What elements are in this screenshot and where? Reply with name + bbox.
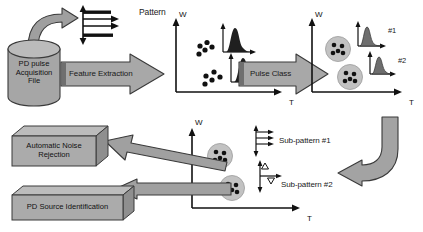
pulse-class-label: Pulse Class <box>250 69 291 78</box>
feature-space-plot-xlabel: T <box>289 98 294 107</box>
automatic-noise-rejection-label: Automatic Noise Rejection <box>12 142 96 159</box>
pd-source-identification[interactable]: PD Source Identification <box>10 184 136 224</box>
automatic-noise-rejection[interactable]: Automatic Noise Rejection <box>10 124 110 168</box>
classified-plot: W T #1 #2 <box>300 14 418 98</box>
pd-pulse-acquisition-file-label: PD pulse Acquisition File <box>6 60 62 86</box>
noise-rejection-line-2: Rejection <box>38 150 70 159</box>
subpattern-plot-xlabel: T <box>307 214 312 223</box>
curved-arrow-right <box>326 115 408 187</box>
arrow-to-noise-rejection <box>103 130 229 174</box>
pd-pulse-acquisition-file: PD pulse Acquisition File <box>6 40 62 106</box>
peak-1-label: #1 <box>388 26 396 35</box>
feature-extraction-label: Feature Extraction <box>69 69 133 78</box>
classified-plot-ylabel: W <box>315 10 323 19</box>
file-line-3: File <box>28 76 40 85</box>
feature-space-plot-ylabel: W <box>179 10 187 19</box>
subpattern-2-label: Sub-pattern #2 <box>281 180 333 189</box>
source-identification-line-1: PD Source Identification <box>27 202 108 211</box>
bars-waveform-icon <box>254 125 274 157</box>
feature-extraction-arrow: Feature Extraction <box>60 53 166 95</box>
pattern-label: Pattern <box>139 7 166 17</box>
pd-source-identification-label: PD Source Identification <box>12 203 123 212</box>
classified-plot-xlabel: T <box>409 98 414 107</box>
peak-2-label: #2 <box>398 56 406 65</box>
diagram-canvas: Pattern PD pulse Acquisition File Featur… <box>0 0 423 232</box>
subpattern-plot-ylabel: W <box>195 118 203 127</box>
subpattern-1-label: Sub-pattern #1 <box>279 136 331 145</box>
triangle-axes-icon <box>258 160 282 193</box>
pattern-waveform-icon <box>74 4 136 46</box>
